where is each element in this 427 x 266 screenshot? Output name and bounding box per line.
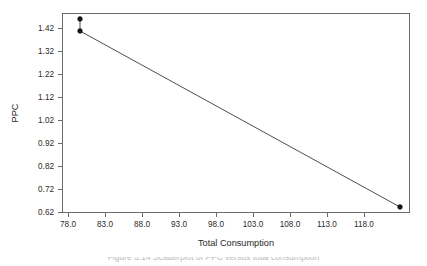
y-axis-ticks <box>58 28 63 212</box>
series-line <box>80 19 400 207</box>
x-tick-label: 83.0 <box>97 220 113 229</box>
x-axis-tick-labels: 78.0 83.0 88.0 93.0 98.0 103.0 108.0 113… <box>60 220 374 229</box>
y-tick-label: 0.82 <box>38 162 54 171</box>
data-point <box>398 205 403 210</box>
y-axis-tick-labels: 0.62 0.72 0.82 0.92 1.02 1.12 1.22 1.32 … <box>38 24 54 217</box>
y-tick-label: 0.62 <box>38 208 54 217</box>
data-point <box>78 17 83 22</box>
chart-figure: 0.62 0.72 0.82 0.92 1.02 1.12 1.22 1.32 … <box>0 0 427 266</box>
x-axis-title: Total Consumption <box>198 238 274 248</box>
y-axis-title: PPC <box>10 103 20 122</box>
x-tick-label: 88.0 <box>134 220 150 229</box>
ppc-line-chart: 0.62 0.72 0.82 0.92 1.02 1.12 1.22 1.32 … <box>0 0 427 266</box>
y-tick-label: 0.72 <box>38 185 54 194</box>
x-tick-label: 98.0 <box>208 220 224 229</box>
x-tick-label: 93.0 <box>171 220 187 229</box>
x-axis-ticks <box>68 212 364 217</box>
y-tick-label: 0.92 <box>38 139 54 148</box>
y-tick-label: 1.22 <box>38 70 54 79</box>
y-tick-label: 1.12 <box>38 93 54 102</box>
x-tick-label: 118.0 <box>354 220 374 229</box>
y-tick-label: 1.32 <box>38 47 54 56</box>
x-tick-label: 103.0 <box>243 220 264 229</box>
plot-frame <box>63 14 410 213</box>
y-tick-label: 1.42 <box>38 24 54 33</box>
x-tick-label: 108.0 <box>280 220 301 229</box>
y-tick-label: 1.02 <box>38 116 54 125</box>
data-point <box>78 29 83 34</box>
x-tick-label: 113.0 <box>317 220 337 229</box>
x-tick-label: 78.0 <box>60 220 76 229</box>
data-series-ppc <box>78 17 403 210</box>
